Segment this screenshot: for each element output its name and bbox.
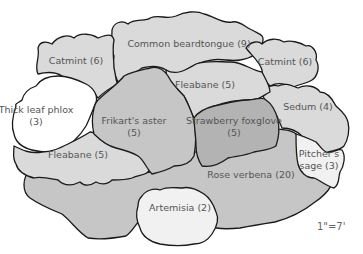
label-artemisia: Artemisia (2) xyxy=(149,202,211,214)
label-frikarts-aster-count: (5) xyxy=(102,127,167,139)
label-thick-leaf-phlox-name: Thick leaf phlox xyxy=(0,104,73,116)
label-catmint-left: Catmint (6) xyxy=(49,55,103,67)
scale-label: 1"=7' xyxy=(317,221,345,232)
label-fleabane-top: Fleabane (5) xyxy=(175,79,235,91)
label-pitchers-sage-name: Pitcher's xyxy=(299,148,339,160)
bed-artemisia xyxy=(137,187,218,245)
label-sedum: Sedum (4) xyxy=(283,101,333,113)
label-frikarts-aster: Frikart's aster (5) xyxy=(102,115,167,139)
label-common-beardtongue: Common beardtongue (9) xyxy=(127,38,250,50)
label-frikarts-aster-name: Frikart's aster xyxy=(102,115,167,127)
label-thick-leaf-phlox-count: (3) xyxy=(0,116,73,128)
label-strawberry-foxglove-name: Strawberry foxglove xyxy=(186,115,282,127)
label-strawberry-foxglove-count: (5) xyxy=(186,127,282,139)
label-pitchers-sage-count: sage (3) xyxy=(299,160,339,172)
label-thick-leaf-phlox: Thick leaf phlox (3) xyxy=(0,104,73,128)
label-strawberry-foxglove: Strawberry foxglove (5) xyxy=(186,115,282,139)
label-fleabane-bottom: Fleabane (5) xyxy=(48,149,108,161)
label-rose-verbena: Rose verbena (20) xyxy=(207,169,294,181)
label-catmint-right: Catmint (6) xyxy=(258,56,312,68)
label-pitchers-sage: Pitcher's sage (3) xyxy=(299,148,339,172)
